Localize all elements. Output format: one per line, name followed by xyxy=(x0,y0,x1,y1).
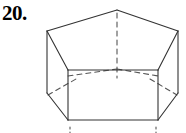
bottom-edge-right-slant xyxy=(158,93,178,120)
top-edge-apex-to-right xyxy=(117,10,178,31)
top-edge-apex-to-left xyxy=(47,10,117,31)
top-edge-left-front xyxy=(47,31,68,70)
hidden-bottom-edge-right xyxy=(150,79,177,95)
bottom-tick-marks-group xyxy=(70,127,156,133)
figure-container: 20. xyxy=(0,0,186,133)
top-edge-right-front xyxy=(158,31,178,70)
hidden-bottom-edge-left xyxy=(48,79,76,95)
pentagonal-prism-drawing xyxy=(0,0,186,133)
bottom-edge-left-slant xyxy=(47,93,68,120)
visible-edges-group xyxy=(47,10,178,120)
